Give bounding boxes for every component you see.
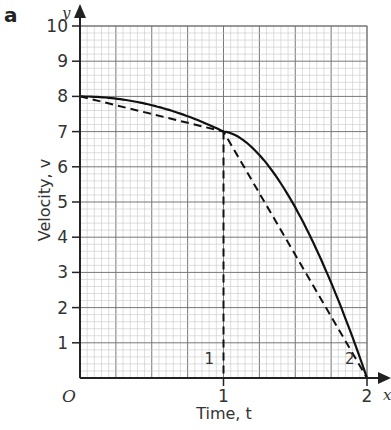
svg-text:2: 2 bbox=[57, 298, 68, 318]
svg-text:4: 4 bbox=[57, 227, 68, 247]
y-axis-arrow-icon bbox=[74, 4, 86, 18]
svg-text:1: 1 bbox=[57, 333, 68, 353]
svg-text:5: 5 bbox=[57, 192, 68, 212]
x-axis-arrow-icon bbox=[378, 372, 391, 384]
x-axis-symbol: x bbox=[383, 386, 391, 404]
origin-label: O bbox=[62, 386, 76, 406]
svg-text:10: 10 bbox=[46, 16, 68, 36]
annotations: 12 bbox=[204, 350, 354, 368]
y-axis-label: Velocity, v bbox=[35, 159, 54, 241]
x-tick-labels: 12 bbox=[218, 378, 372, 406]
velocity-time-chart: a y x O 12345678910 12 Time, t Velocity,… bbox=[0, 0, 391, 430]
svg-text:1: 1 bbox=[218, 386, 229, 406]
x-axis-label: Time, t bbox=[195, 404, 252, 423]
panel-label: a bbox=[4, 3, 18, 27]
svg-text:2: 2 bbox=[362, 386, 373, 406]
svg-text:8: 8 bbox=[57, 86, 68, 106]
svg-text:3: 3 bbox=[57, 262, 68, 282]
svg-text:7: 7 bbox=[57, 122, 68, 142]
svg-text:1: 1 bbox=[204, 350, 214, 368]
svg-text:9: 9 bbox=[57, 51, 68, 71]
svg-text:6: 6 bbox=[57, 157, 68, 177]
svg-text:2: 2 bbox=[345, 350, 355, 368]
